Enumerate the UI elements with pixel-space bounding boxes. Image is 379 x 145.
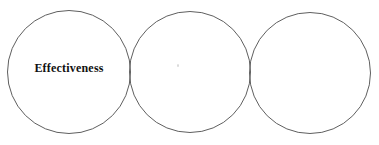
- circle-left: Effectiveness: [7, 10, 131, 134]
- scan-speck-artifact: [177, 64, 179, 67]
- circle-middle: [129, 11, 251, 133]
- circle-right: [249, 12, 371, 134]
- circle-left-label: Effectiveness: [34, 61, 103, 76]
- three-circle-diagram: Effectiveness: [0, 0, 379, 145]
